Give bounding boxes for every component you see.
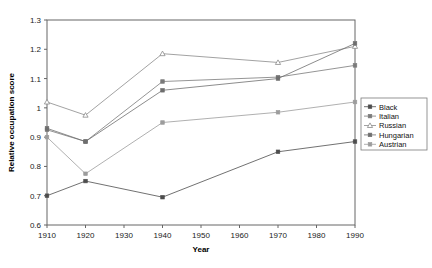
data-point	[45, 194, 49, 198]
series-line	[47, 65, 355, 141]
x-tick-label: 1930	[115, 231, 133, 240]
data-point	[353, 42, 357, 46]
legend-marker	[368, 105, 372, 109]
y-tick-label: 0.8	[30, 162, 42, 171]
legend-label: Black	[379, 103, 398, 112]
data-point	[276, 110, 280, 114]
data-point	[161, 88, 165, 92]
data-point	[161, 195, 165, 199]
x-tick-label: 1940	[154, 231, 172, 240]
x-tick-label: 1960	[231, 231, 249, 240]
plot-frame	[47, 20, 355, 225]
y-tick-label: 1.2	[30, 45, 42, 54]
y-axis-title: Relative occupation score	[7, 72, 16, 172]
data-point	[84, 172, 88, 176]
y-tick-label: 0.6	[30, 221, 42, 230]
x-tick-label: 1980	[308, 231, 326, 240]
legend-marker	[368, 114, 372, 118]
data-point	[161, 121, 165, 125]
data-point	[353, 64, 357, 68]
legend-marker	[368, 133, 372, 137]
data-point	[44, 99, 49, 104]
y-tick-label: 0.9	[30, 133, 42, 142]
line-chart: 0.60.70.80.911.11.21.3191019201930194019…	[0, 0, 432, 268]
y-tick-label: 1.3	[30, 16, 42, 25]
legend-label: Hungarian	[379, 131, 414, 140]
legend-label: Austrian	[379, 140, 407, 149]
data-point	[84, 179, 88, 183]
x-tick-label: 1950	[192, 231, 210, 240]
series-line	[47, 46, 355, 115]
x-tick-label: 1910	[38, 231, 56, 240]
legend-label: Russian	[379, 121, 406, 130]
data-point	[84, 140, 88, 144]
x-axis-title: Year	[193, 245, 210, 254]
data-point	[45, 135, 49, 139]
series-line	[47, 43, 355, 141]
y-tick-label: 1	[37, 104, 42, 113]
data-point	[353, 100, 357, 104]
series-line	[47, 142, 355, 198]
x-tick-label: 1920	[77, 231, 95, 240]
legend-marker	[368, 143, 372, 147]
data-point	[45, 127, 49, 131]
series-austrian	[45, 100, 357, 175]
data-point	[276, 150, 280, 154]
series-russian	[44, 44, 357, 117]
y-tick-label: 0.7	[30, 192, 42, 201]
data-point	[161, 80, 165, 84]
x-tick-label: 1990	[346, 231, 364, 240]
series-italian	[45, 64, 357, 144]
data-point	[160, 51, 165, 56]
legend-label: Italian	[379, 112, 399, 121]
chart-container: 0.60.70.80.911.11.21.3191019201930194019…	[0, 0, 432, 268]
x-tick-label: 1970	[269, 231, 287, 240]
series-line	[47, 102, 355, 174]
y-tick-label: 1.1	[30, 75, 42, 84]
data-point	[353, 140, 357, 144]
data-point	[276, 77, 280, 81]
